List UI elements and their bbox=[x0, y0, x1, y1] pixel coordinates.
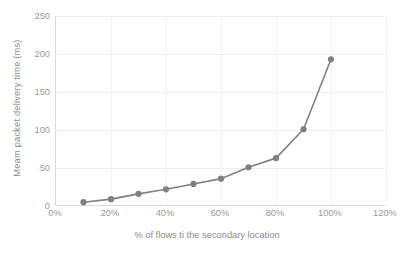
x-axis-tick-label: 100% bbox=[318, 208, 342, 218]
x-axis-tick-label: 0% bbox=[48, 208, 61, 218]
y-axis-tick-labels: 050100150200250 bbox=[24, 0, 50, 261]
series-line: 10%, 5 ms20%, 9 ms30%, 16 ms40%, 22 ms50… bbox=[56, 16, 386, 206]
data-point-marker: 40%, 22 ms bbox=[163, 186, 169, 192]
data-point-marker: 100%, 193 ms bbox=[328, 56, 334, 62]
y-axis-tick-label: 100 bbox=[24, 125, 50, 135]
line-chart: Meam packet delivery time (ms) 050100150… bbox=[0, 0, 414, 261]
plot-area: 10%, 5 ms20%, 9 ms30%, 16 ms40%, 22 ms50… bbox=[55, 16, 385, 206]
y-axis-title-label: Meam packet delivery time (ms) bbox=[12, 39, 22, 176]
x-axis-tick-label: 20% bbox=[101, 208, 120, 218]
y-axis-tick-label: 200 bbox=[24, 49, 50, 59]
series-polyline bbox=[84, 59, 332, 202]
y-axis-tick-label: 150 bbox=[24, 87, 50, 97]
data-point-marker: 90%, 101 ms bbox=[300, 126, 306, 132]
data-point-marker: 20%, 9 ms bbox=[108, 196, 114, 202]
y-axis-tick-label: 0 bbox=[24, 201, 50, 211]
y-axis-tick-label: 250 bbox=[24, 11, 50, 21]
data-point-marker: 30%, 16 ms bbox=[135, 191, 141, 197]
data-point-marker: 50%, 29 ms bbox=[190, 181, 196, 187]
y-axis-title: Meam packet delivery time (ms) bbox=[9, 0, 25, 215]
data-point-marker: 70%, 51 ms bbox=[245, 164, 251, 170]
x-axis-tick-label: 40% bbox=[156, 208, 175, 218]
x-axis-tick-label: 60% bbox=[211, 208, 230, 218]
vertical-gridline bbox=[386, 16, 387, 205]
data-point-marker: 80%, 63 ms bbox=[273, 155, 279, 161]
x-axis-title-label: % of flows ti the secondary location bbox=[134, 230, 279, 240]
x-axis-title: % of flows ti the secondary location bbox=[0, 230, 414, 240]
data-point-marker: 60%, 36 ms bbox=[218, 176, 224, 182]
x-axis-tick-label: 120% bbox=[373, 208, 397, 218]
data-point-marker: 10%, 5 ms bbox=[80, 199, 86, 205]
y-axis-tick-label: 50 bbox=[24, 163, 50, 173]
x-axis-tick-label: 80% bbox=[266, 208, 285, 218]
x-axis-tick-labels: 0%20%40%60%80%100%120% bbox=[55, 208, 385, 224]
